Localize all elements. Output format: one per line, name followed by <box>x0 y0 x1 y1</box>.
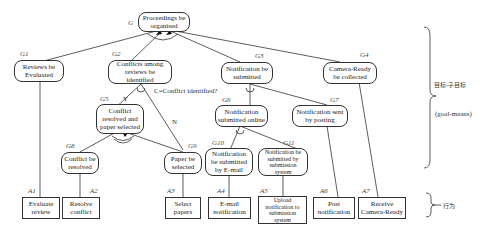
label-a5: A5 <box>260 187 268 195</box>
goal-node-g11: Notification be submitted by submission … <box>258 148 308 176</box>
legend-goal-means: (goal-means) <box>435 110 472 118</box>
goal-node-g2: Conflicts among reviews be identified <box>108 60 172 84</box>
label-g3: G3 <box>255 52 264 60</box>
action-text: Select papers <box>168 200 198 216</box>
goal-text: Proceedings be organised <box>141 14 187 30</box>
legend-behavior: 行为 <box>443 201 455 210</box>
goal-node-g: Proceedings be organised <box>138 12 190 32</box>
action-node-a4: E-mail notification <box>208 197 251 219</box>
goal-text: Conflict resolved and paper selected <box>99 107 141 131</box>
goal-text: Notification sent by posting <box>295 108 345 124</box>
goal-text: Reviews be Evaluated <box>17 63 61 79</box>
label-g4: G4 <box>360 51 369 59</box>
label-g11: G11 <box>283 139 295 147</box>
branch-no-label: N <box>172 118 177 126</box>
goal-text: Conflicts among reviews be identified <box>111 60 169 84</box>
goal-text: Notification be submitted by submission … <box>261 149 305 175</box>
label-a1: A1 <box>28 187 36 195</box>
label-g2: G2 <box>112 50 121 58</box>
branch-yes-label: Y <box>123 95 128 103</box>
goal-node-g6: Notification submitted online <box>215 105 268 127</box>
action-text: Upload notification to submission system <box>261 197 304 223</box>
label-g10: G10 <box>212 139 224 147</box>
action-node-a5: Upload notification to submission system <box>258 196 307 224</box>
action-text: Receive Camera-Ready <box>361 200 403 216</box>
label-g8: G8 <box>66 142 75 150</box>
goal-node-g4: Camera-Ready be collected <box>323 62 377 84</box>
goal-text: Notification submitted online <box>218 108 265 124</box>
goal-node-g1: Reviews be Evaluated <box>14 60 64 82</box>
action-node-a1: Evaluate review <box>22 197 60 219</box>
label-g6: G6 <box>222 96 231 104</box>
action-node-a3: Select papers <box>165 197 201 219</box>
label-g: G <box>128 19 133 27</box>
label-a7: A7 <box>362 187 370 195</box>
goal-node-g5: Conflict resolved and paper selected <box>96 104 144 134</box>
goal-node-g10: Notification be submitted by E-mail <box>205 148 253 176</box>
label-a2: A2 <box>90 187 98 195</box>
goal-node-g9: Paper be selected <box>164 152 202 174</box>
label-a4: A4 <box>217 187 225 195</box>
legend-goal-subgoal: 目标-子目标 <box>434 80 466 89</box>
goal-text: Notification be submitted by E-mail <box>208 150 250 174</box>
condition-label: C=Conflict identified? <box>154 87 217 95</box>
label-g1: G1 <box>20 50 29 58</box>
goal-text: Camera-Ready be collected <box>326 65 374 81</box>
action-text: Evaluate review <box>25 200 57 216</box>
goal-text: Conflict be resolved <box>64 155 96 171</box>
goal-text: Paper be selected <box>167 155 199 171</box>
label-g9: G9 <box>188 142 197 150</box>
label-a3: A3 <box>167 187 175 195</box>
goal-node-g8: Conflict be resolved <box>61 152 99 174</box>
action-node-a7: Receive Camera-Ready <box>358 197 406 219</box>
label-g7: G7 <box>330 96 339 104</box>
goal-node-g3: Notification be submitted <box>221 62 273 84</box>
action-text: Resolve conflict <box>65 200 97 216</box>
goal-text: Notification be submitted <box>224 65 270 81</box>
action-text: E-mail notification <box>211 200 248 216</box>
action-node-a6: Post notification <box>313 197 355 219</box>
label-g5: G5 <box>100 95 109 103</box>
label-a6: A6 <box>320 187 328 195</box>
action-text: Post notification <box>316 200 352 216</box>
goal-node-g7: Notification sent by posting <box>292 105 348 127</box>
action-node-a2: Resolve conflict <box>62 197 100 219</box>
